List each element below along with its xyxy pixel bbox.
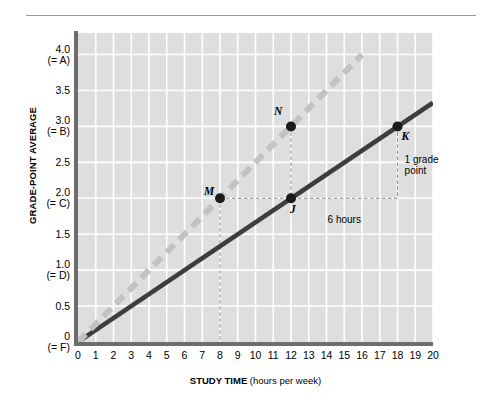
y-tick-value: 4.0 xyxy=(55,43,70,55)
y-tick-grade: (= D) xyxy=(10,270,70,281)
top-divider-rule xyxy=(26,15,476,16)
y-tick-grade: (= C) xyxy=(10,198,70,209)
y-tick-3-0: 3.0(= B) xyxy=(10,115,70,137)
y-tick-1-5: 1.5 xyxy=(10,229,70,240)
x-axis-title: STUDY TIME (hours per week) xyxy=(78,375,433,386)
annotation-rise-label: 1 gradepoint xyxy=(405,154,439,177)
x-axis-tick-labels: 01234567891011121314151617181920 xyxy=(0,349,480,369)
y-tick-grade: (= A) xyxy=(10,55,70,66)
y-tick-value: 3.5 xyxy=(55,84,70,96)
point-label-k: K xyxy=(402,130,410,142)
point-label-n: N xyxy=(274,105,282,117)
x-tick-20: 20 xyxy=(421,349,445,361)
plot-canvas xyxy=(78,33,433,342)
y-tick-2-5: 2.5 xyxy=(10,157,70,168)
y-axis-title: GRADE-POINT AVERAGE xyxy=(27,86,38,246)
y-tick-3-5: 3.5 xyxy=(10,85,70,96)
x-axis-line xyxy=(74,342,433,346)
y-tick-1-0: 1.0(= D) xyxy=(10,259,70,281)
y-tick-4-0: 4.0(= A) xyxy=(10,44,70,66)
y-tick-2-0: 2.0(= C) xyxy=(10,187,70,209)
data-point-m xyxy=(215,193,225,203)
data-point-n xyxy=(286,121,296,131)
y-tick-0-5: 0.5 xyxy=(10,301,70,312)
y-tick-value: 0.5 xyxy=(55,300,70,312)
annotation-run-label: 6 hours xyxy=(328,214,361,226)
y-tick-value: 1.5 xyxy=(55,228,70,240)
data-point-j xyxy=(286,193,296,203)
x-axis-title-main: STUDY TIME xyxy=(190,375,247,386)
x-axis-title-units: (hours per week) xyxy=(250,375,321,386)
y-tick-value: 2.5 xyxy=(55,156,70,168)
point-label-m: M xyxy=(204,185,214,197)
point-label-j: J xyxy=(290,203,296,215)
plot-panel xyxy=(78,33,433,342)
y-tick-grade: (= B) xyxy=(10,126,70,137)
gpa-vs-study-time-chart: 4.0(= A)3.53.0(= B)2.52.0(= C)1.51.0(= D… xyxy=(0,0,480,410)
